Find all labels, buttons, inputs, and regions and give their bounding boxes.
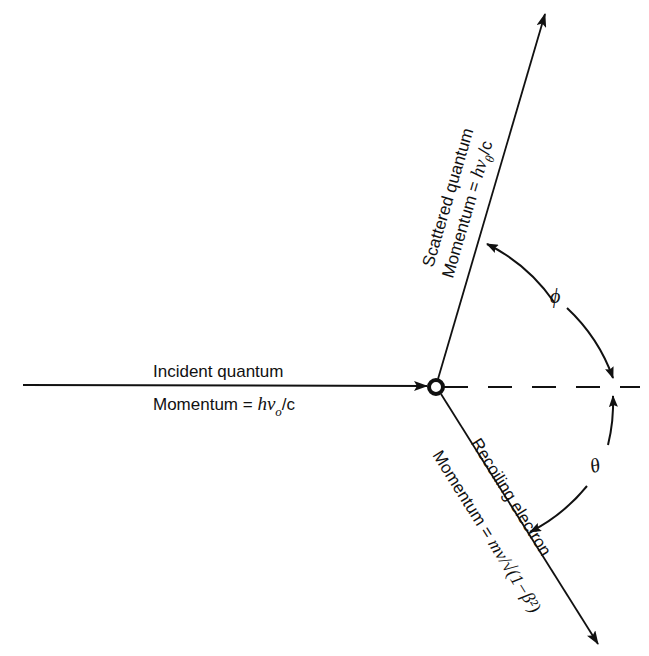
theta-label: θ	[587, 453, 602, 477]
phi-arc-upper	[487, 244, 554, 302]
incident-label: Incident quantum	[153, 362, 283, 381]
theta-arc-upper	[608, 396, 613, 445]
recoil-label: Recoiling electron	[467, 435, 555, 560]
phi-arc-lower	[567, 308, 613, 378]
incident-momentum: Momentum = hνo/c	[153, 393, 296, 419]
compton-diagram: ϕ θ Incident quantum Momentum = hνo/c Sc…	[0, 0, 649, 656]
electron-center-icon	[429, 380, 443, 394]
incident-arrow	[23, 385, 427, 386]
phi-label: ϕ	[550, 285, 560, 308]
